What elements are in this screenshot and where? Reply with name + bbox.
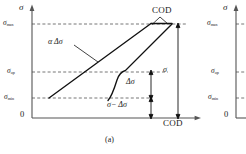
x-axis-arrowhead [195, 116, 201, 121]
tick-label-sigma-max-sub: max [7, 22, 14, 27]
panel-b-tick-label-sigma-max: σmax [207, 19, 218, 27]
tick-label-sigma-op-sub: op [11, 70, 15, 75]
sigma-arrow [176, 23, 180, 119]
reference-lines [32, 24, 186, 98]
y-axis-arrowhead [30, 5, 35, 12]
panel-b-tick-label-sigma-op: σop [211, 67, 219, 75]
annotation-cod-curve-label: COD [152, 6, 172, 15]
sigma-minus-delta-sigma-arrow [149, 97, 153, 119]
panel-b-tick-label-sigma-max-sub: max [211, 22, 218, 27]
tick-label-sigma-min: σmin [4, 93, 14, 101]
panel-b-tick-label-sigma-min: σmin [208, 93, 218, 101]
panel-b-tick-label-sigma-op-sub: op [215, 70, 219, 75]
tick-label-sigma-min-sub: min [8, 96, 14, 101]
figure-caption: (a) [105, 136, 114, 144]
panel-b-origin-label: 0 [224, 110, 228, 119]
loading-branch [108, 24, 172, 101]
panel-a-x-axis-label: COD [163, 119, 183, 128]
tick-label-sigma-max: σmax [3, 19, 14, 27]
panel-b-y-axis-symbol: σ [223, 3, 227, 12]
hysteresis-loop [49, 24, 172, 101]
figure-root: σ σmax σop σmin 0 α Δσ COD Δσ σ σ− Δσ CO… [0, 0, 246, 154]
delta-sigma-arrow-head-up [149, 70, 153, 75]
annotation-alpha-delta-sigma: α Δσ [48, 38, 63, 46]
annotation-sigma: σ [163, 66, 167, 74]
annotation-sigma-minus-delta-sigma: σ− Δσ [107, 101, 127, 109]
delta-sigma-arrow [149, 70, 153, 100]
panel-b-y-axis-arrowhead [234, 5, 239, 12]
panel-a-y-axis-symbol: σ [19, 3, 23, 12]
annotation-delta-sigma: Δσ [126, 78, 135, 86]
panel-b-tick-label-sigma-min-sub: min [212, 96, 218, 101]
origin-label: 0 [20, 110, 24, 119]
alpha-delta-sigma-leader [74, 45, 98, 62]
tick-label-sigma-op: σop [7, 67, 15, 75]
panel-b-axes [234, 5, 246, 119]
panel-b-reference-lines [236, 24, 246, 98]
